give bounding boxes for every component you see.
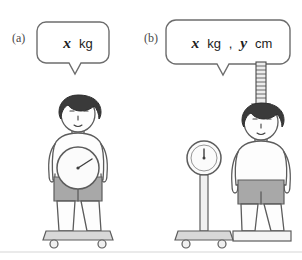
platform-a-wheel-right: [98, 240, 106, 248]
person-b-torso: [235, 141, 286, 185]
person-b-left-leg: [241, 204, 258, 231]
bubble-b-variable-2: y: [238, 34, 247, 51]
dial-scale-b-hub: [203, 157, 206, 160]
panel-b-dial-scale: [175, 141, 233, 248]
bubble-b-unit-2: cm: [255, 36, 272, 51]
bubble-a-unit: kg: [79, 36, 93, 51]
bubble-b-separator: ,: [229, 36, 233, 51]
figure-container: (a) x kg: [0, 0, 302, 260]
bubble-a-variable: x: [62, 34, 71, 51]
panel-b-speech-bubble: x kg , y cm: [166, 20, 290, 75]
panel-b-person: [232, 103, 291, 231]
illustration-canvas: (a) x kg: [0, 0, 302, 260]
panel-a-wheeled-platform: [43, 231, 113, 248]
panel-a-label: (a): [12, 31, 25, 45]
bubble-b-text: x kg , y cm: [191, 34, 273, 51]
dial-scale-b-wheel-right: [218, 240, 226, 248]
person-a-right-leg: [81, 201, 101, 231]
panel-b-flat-platform: [233, 231, 291, 241]
panel-a: (a) x kg: [12, 22, 113, 248]
panel-a-person: [49, 95, 108, 231]
bubble-b-variable-1: x: [191, 34, 200, 51]
panel-b-label: (b): [144, 31, 158, 45]
dial-scale-b-post: [200, 175, 208, 231]
platform-b-body: [233, 231, 291, 241]
panel-a-speech-bubble: x kg: [37, 22, 109, 74]
weight-dial-a-hub: [76, 166, 79, 169]
person-b-right-leg: [264, 204, 284, 231]
person-a-left-leg: [57, 201, 75, 231]
dial-scale-b-base: [175, 231, 233, 240]
platform-a-top: [43, 231, 113, 240]
dial-scale-b-wheel-left: [182, 240, 190, 248]
panel-b: (b) x kg , y cm: [144, 20, 291, 248]
platform-a-wheel-left: [50, 240, 58, 248]
bubble-b-unit-1: kg: [207, 36, 221, 51]
